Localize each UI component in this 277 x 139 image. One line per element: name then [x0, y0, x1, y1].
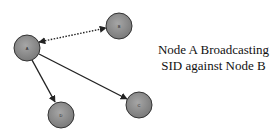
caption-line-1: Node A Broadcasting — [150, 42, 277, 58]
node-d-label: D — [60, 113, 63, 118]
node-c-label: C — [138, 103, 141, 108]
node-a-label: A — [26, 46, 29, 51]
edge-a-b-dotted — [39, 28, 106, 42]
node-c: C — [126, 92, 152, 118]
edge-a-c — [39, 54, 127, 99]
edge-a-d — [32, 60, 55, 102]
node-d: D — [48, 102, 74, 128]
node-a: A — [14, 35, 40, 61]
node-b-label: B — [118, 24, 121, 29]
node-b: B — [106, 13, 132, 39]
diagram-caption: Node A Broadcasting SID against Node B — [150, 42, 277, 74]
caption-line-2: SID against Node B — [150, 58, 277, 74]
